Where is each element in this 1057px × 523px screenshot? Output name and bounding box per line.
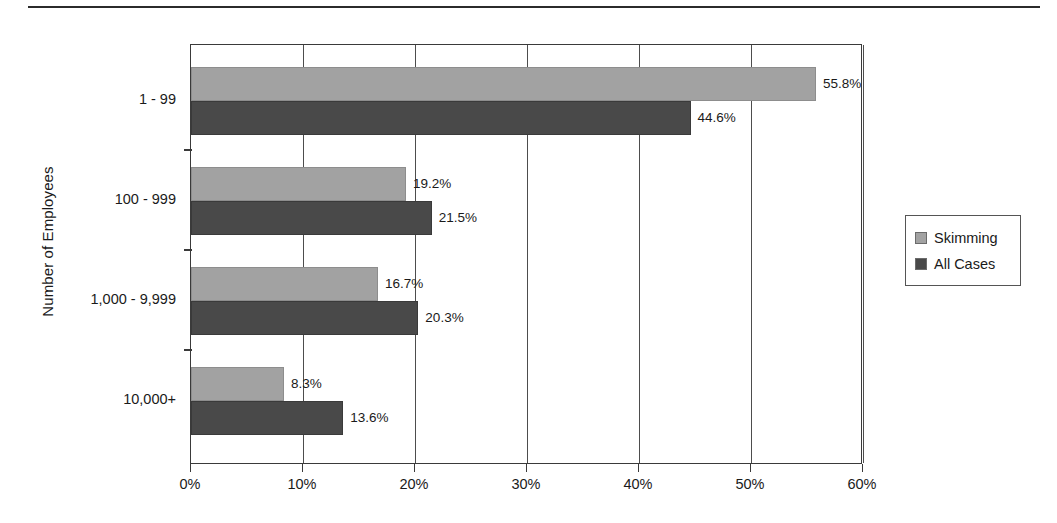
bar-value-label: 21.5%: [439, 201, 477, 235]
bar[interactable]: [191, 301, 418, 335]
y-axis-tick-label: 1,000 - 9,999: [15, 291, 190, 307]
legend-item[interactable]: Skimming: [915, 225, 1020, 251]
chart-legend: SkimmingAll Cases: [905, 215, 1021, 286]
x-axis-tick-label: 60%: [832, 476, 892, 492]
bar-group: 8.3%13.6%: [191, 367, 861, 435]
gridline: [863, 45, 864, 463]
legend-label: Skimming: [934, 230, 998, 246]
bar-series-container: 55.8%44.6%19.2%21.5%16.7%20.3%8.3%13.6%: [191, 45, 861, 463]
bar-chart-figure: Number of Employees 1 - 99100 - 9991,000…: [0, 0, 1057, 523]
bar[interactable]: [191, 101, 691, 135]
legend-label: All Cases: [934, 256, 995, 272]
bar-value-label: 13.6%: [350, 401, 388, 435]
bar[interactable]: [191, 367, 284, 401]
plot-area: 55.8%44.6%19.2%21.5%16.7%20.3%8.3%13.6%: [190, 44, 862, 464]
y-axis-tick-label: 10,000+: [15, 391, 190, 407]
bar[interactable]: [191, 67, 816, 101]
x-axis-tick: [302, 464, 303, 472]
x-axis-tick-label: 0%: [160, 476, 220, 492]
x-axis-tick: [190, 464, 191, 472]
bar[interactable]: [191, 267, 378, 301]
bar-group: 19.2%21.5%: [191, 167, 861, 235]
y-axis-category-labels: 1 - 99100 - 9991,000 - 9,99910,000+: [0, 44, 190, 464]
bar-group: 55.8%44.6%: [191, 67, 861, 135]
legend-swatch-icon: [915, 258, 927, 270]
bar[interactable]: [191, 201, 432, 235]
x-axis-tick-label: 30%: [496, 476, 556, 492]
legend-item[interactable]: All Cases: [915, 251, 1020, 277]
x-axis-tick-label: 40%: [608, 476, 668, 492]
x-axis-tick-label: 50%: [720, 476, 780, 492]
bar-value-label: 55.8%: [823, 67, 861, 101]
bar[interactable]: [191, 167, 406, 201]
bar[interactable]: [191, 401, 343, 435]
bar-value-label: 8.3%: [291, 367, 322, 401]
bar-value-label: 19.2%: [413, 167, 451, 201]
bar-group: 16.7%20.3%: [191, 267, 861, 335]
x-axis-tick: [638, 464, 639, 472]
legend-swatch-icon: [915, 232, 927, 244]
x-axis: 0%10%20%30%40%50%60%: [190, 464, 862, 504]
x-axis-tick-label: 10%: [272, 476, 332, 492]
x-axis-tick: [862, 464, 863, 472]
y-axis-tick: [184, 349, 192, 351]
bar-value-label: 44.6%: [698, 101, 736, 135]
bar-value-label: 20.3%: [425, 301, 463, 335]
x-axis-tick-label: 20%: [384, 476, 444, 492]
bar-value-label: 16.7%: [385, 267, 423, 301]
y-axis-tick: [184, 149, 192, 151]
y-axis-tick-label: 1 - 99: [15, 91, 190, 107]
x-axis-tick: [750, 464, 751, 472]
x-axis-tick: [526, 464, 527, 472]
x-axis-tick: [414, 464, 415, 472]
y-axis-tick: [184, 249, 192, 251]
y-axis-tick-label: 100 - 999: [15, 191, 190, 207]
